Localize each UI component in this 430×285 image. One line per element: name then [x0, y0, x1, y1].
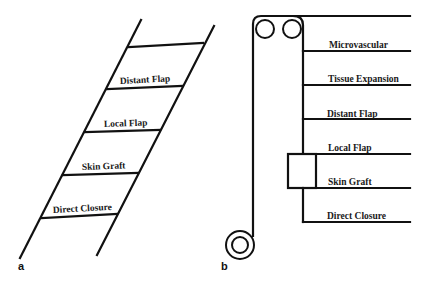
winch-outer-icon — [226, 231, 254, 259]
ladder-label: Distant Flap — [120, 73, 171, 86]
floor-label: Microvascular — [329, 40, 389, 50]
ladder-rung — [107, 86, 182, 89]
ladder-label: Local Flap — [104, 117, 148, 129]
floor-label: Distant Flap — [327, 109, 377, 119]
elevator-diagram: Microvascular Tissue Expansion Distant F… — [221, 16, 410, 272]
ladder-rung — [85, 130, 160, 132]
floor-label: Skin Graft — [328, 177, 372, 187]
pulley-right-icon — [283, 20, 301, 38]
ladder-label: Direct Closure — [53, 202, 112, 215]
winch-inner-icon — [232, 237, 248, 253]
panel-label-b: b — [221, 260, 228, 272]
ladder-label: Skin Graft — [82, 160, 127, 172]
reconstruction-diagram: Distant Flap Local Flap Skin Graft Direc… — [0, 0, 430, 285]
pulley-left-icon — [256, 20, 274, 38]
ladder-rung-top — [129, 43, 203, 47]
floor-label: Direct Closure — [327, 211, 386, 221]
ladder-rung — [63, 173, 138, 175]
ladder-right-rail — [97, 26, 214, 255]
panel-label-a: a — [18, 260, 25, 272]
floor-label: Local Flap — [328, 143, 372, 153]
floor-label: Tissue Expansion — [328, 74, 400, 84]
elevator-car — [288, 154, 316, 188]
ladder-left-rail — [20, 20, 141, 258]
ladder-diagram: Distant Flap Local Flap Skin Graft Direc… — [18, 20, 214, 272]
